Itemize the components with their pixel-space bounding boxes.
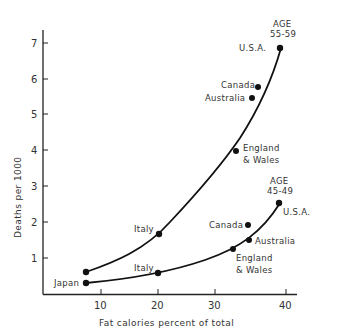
svg-text:AGE: AGE xyxy=(270,176,289,186)
svg-text:Canada: Canada xyxy=(221,80,255,90)
point-australia-55-59 xyxy=(249,95,255,101)
x-axis-title: Fat calories percent of total xyxy=(99,318,234,328)
svg-text:U.S.A.: U.S.A. xyxy=(283,207,310,217)
point-australia-45-49 xyxy=(246,237,252,243)
svg-text:England: England xyxy=(243,143,280,153)
svg-text:5: 5 xyxy=(31,109,37,120)
y-ticks xyxy=(43,43,48,258)
x-tick-labels: 10 20 30 40 xyxy=(94,300,292,311)
point-italy-45-49 xyxy=(155,270,161,276)
chart-canvas: 1 2 3 4 5 6 7 10 20 30 40 Fat calories p… xyxy=(0,0,338,336)
svg-text:2: 2 xyxy=(31,217,37,228)
x-ticks xyxy=(101,289,286,295)
svg-text:6: 6 xyxy=(31,74,37,85)
point-england-wales-55-59 xyxy=(233,148,239,154)
point-usa-55-59 xyxy=(277,45,283,51)
point-italy-55-59 xyxy=(156,231,162,237)
svg-text:Australia: Australia xyxy=(205,93,245,103)
svg-text:7: 7 xyxy=(31,38,37,49)
labels-age-55-59: AGE 55-59 U.S.A. Canada Australia Englan… xyxy=(134,19,296,234)
svg-text:30: 30 xyxy=(208,300,221,311)
svg-text:& Wales: & Wales xyxy=(243,155,280,165)
svg-text:Japan: Japan xyxy=(53,278,79,288)
y-axis-title: Deaths per 1000 xyxy=(13,157,23,238)
point-england-wales-45-49 xyxy=(230,246,236,252)
svg-text:Canada: Canada xyxy=(209,220,243,230)
labels-age-45-49: AGE 45-49 U.S.A. Canada Australia Englan… xyxy=(53,176,310,288)
y-tick-labels: 1 2 3 4 5 6 7 xyxy=(31,38,37,264)
svg-text:45-49: 45-49 xyxy=(267,186,293,196)
svg-text:U.S.A.: U.S.A. xyxy=(239,43,266,53)
svg-text:1: 1 xyxy=(31,253,37,264)
svg-text:4: 4 xyxy=(31,145,37,156)
svg-text:England: England xyxy=(236,253,273,263)
svg-text:AGE: AGE xyxy=(273,19,292,29)
svg-text:10: 10 xyxy=(94,300,107,311)
svg-text:Italy: Italy xyxy=(134,263,154,273)
point-japan-45-49 xyxy=(83,280,89,286)
svg-text:& Wales: & Wales xyxy=(236,265,273,275)
point-canada-55-59 xyxy=(255,84,261,90)
svg-text:20: 20 xyxy=(151,300,164,311)
point-canada-45-49 xyxy=(245,222,251,228)
svg-text:3: 3 xyxy=(31,181,37,192)
point-usa-45-49 xyxy=(276,200,282,206)
svg-text:Italy: Italy xyxy=(134,224,154,234)
point-japan-55-59 xyxy=(83,269,89,275)
svg-text:55-59: 55-59 xyxy=(270,29,296,39)
svg-text:40: 40 xyxy=(279,300,292,311)
svg-text:Australia: Australia xyxy=(255,236,295,246)
